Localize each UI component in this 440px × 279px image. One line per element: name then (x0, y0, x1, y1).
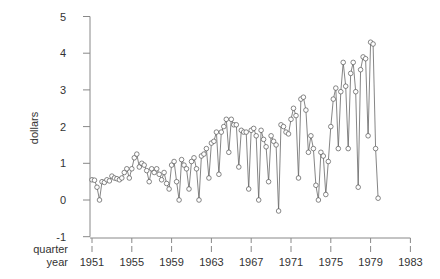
x-tick-label: 1967 (239, 256, 263, 268)
data-point (311, 146, 316, 151)
data-point (187, 187, 192, 192)
data-point (167, 187, 172, 192)
data-point (358, 67, 363, 72)
data-point (159, 178, 164, 183)
data-point (324, 192, 329, 197)
data-point (343, 84, 348, 89)
data-point (339, 89, 344, 94)
data-point (212, 139, 217, 144)
data-point (237, 165, 242, 170)
x-axis-label-year: year (47, 256, 69, 268)
data-point (341, 60, 346, 65)
data-point (219, 130, 224, 135)
data-point (254, 134, 259, 139)
data-point (92, 178, 97, 183)
data-point (251, 126, 256, 131)
data-point (120, 176, 125, 181)
data-point (348, 71, 353, 76)
data-point (291, 106, 296, 111)
y-tick-label: 4 (60, 47, 66, 59)
data-point (274, 143, 279, 148)
x-tick-label: 1971 (279, 256, 303, 268)
data-point (194, 167, 199, 172)
data-point (147, 179, 152, 184)
data-point (127, 176, 132, 181)
data-point (286, 132, 291, 137)
data-point (351, 60, 356, 65)
data-point (107, 179, 112, 184)
data-point (142, 163, 147, 168)
data-point (162, 170, 167, 175)
data-point (266, 179, 271, 184)
data-point (301, 95, 306, 100)
data-point (294, 113, 299, 118)
y-axis: -1012345 (56, 11, 90, 243)
y-tick-label: 1 (60, 157, 66, 169)
data-point (204, 146, 209, 151)
y-tick-label: 2 (60, 121, 66, 133)
data-point (276, 209, 281, 214)
data-point (259, 128, 264, 133)
data-point (234, 123, 239, 128)
data-point (316, 198, 321, 203)
data-point (366, 134, 371, 139)
data-point (130, 167, 135, 172)
data-point (326, 159, 331, 164)
data-point (207, 176, 212, 181)
data-point (289, 117, 294, 122)
y-axis-label: dollars (28, 111, 40, 144)
data-point (125, 167, 130, 172)
data-point (227, 150, 232, 155)
data-point (373, 146, 378, 151)
data-point (222, 124, 227, 129)
data-point (179, 157, 184, 162)
data-point (314, 183, 319, 188)
data-point (296, 176, 301, 181)
data-point (224, 117, 229, 122)
data-point (214, 130, 219, 135)
data-point (97, 198, 102, 203)
line-chart: -1012345 1951195519591963196719711975197… (0, 0, 440, 279)
data-point (336, 146, 341, 151)
data-point (144, 168, 149, 173)
data-point (157, 172, 162, 177)
data-point (356, 185, 361, 190)
data-point (244, 130, 249, 135)
data-point (376, 196, 381, 201)
x-tick-label: 1955 (120, 256, 144, 268)
x-axis: 195119551959196319671971197519791983 (80, 238, 423, 268)
data-point (197, 198, 202, 203)
data-point (184, 167, 189, 172)
data-point (264, 145, 269, 150)
data-series-markers (90, 40, 381, 213)
data-point (172, 159, 177, 164)
data-point (321, 154, 326, 159)
data-point (281, 124, 286, 129)
data-point (353, 89, 358, 94)
data-point (261, 137, 266, 142)
x-tick-label: 1979 (358, 256, 382, 268)
data-point (135, 152, 140, 157)
data-point (331, 97, 336, 102)
data-point (95, 185, 100, 190)
data-point (329, 124, 334, 129)
y-tick-label: -1 (56, 231, 66, 243)
x-axis-label-quarter: quarter (33, 243, 68, 255)
y-tick-label: 5 (60, 11, 66, 23)
data-point (192, 156, 197, 161)
data-point (164, 181, 169, 186)
data-point (174, 179, 179, 184)
data-point (363, 56, 368, 61)
data-point (304, 108, 309, 113)
data-point (371, 42, 376, 47)
data-point (346, 146, 351, 151)
data-point (202, 152, 207, 157)
x-tick-label: 1959 (159, 256, 183, 268)
data-point (306, 150, 311, 155)
data-point (246, 187, 251, 192)
data-point (256, 198, 261, 203)
x-tick-label: 1951 (80, 256, 104, 268)
data-point (269, 134, 274, 139)
data-point (309, 134, 314, 139)
data-point (154, 167, 159, 172)
